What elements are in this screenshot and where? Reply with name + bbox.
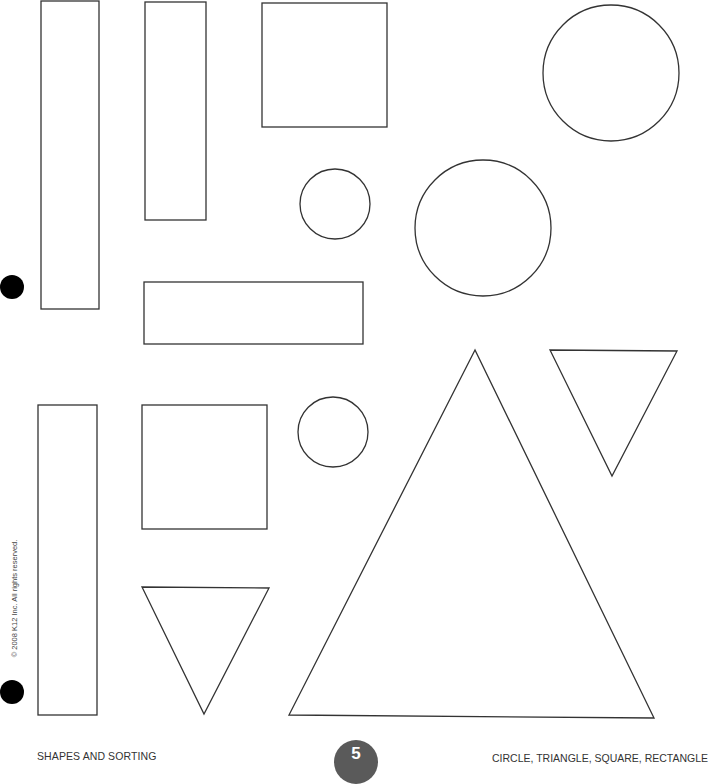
circle-large-middle	[415, 160, 551, 296]
binder-hole-top	[0, 275, 24, 299]
tall-rectangle-bottom-left	[38, 405, 97, 715]
tall-rectangle-top-left	[41, 1, 99, 309]
rectangle-top-middle	[145, 2, 206, 220]
square-bottom	[142, 405, 267, 529]
binder-hole-bottom	[0, 680, 24, 704]
wide-rectangle	[144, 282, 363, 344]
circle-small-top	[300, 169, 370, 239]
triangle-inverted-bottom	[142, 587, 269, 714]
copyright-notice: © 2008 K12 Inc. All rights reserved.	[10, 529, 19, 669]
page-number-badge: 5	[334, 740, 378, 784]
triangle-inverted-right	[550, 350, 677, 476]
triangle-large	[289, 350, 654, 718]
footer-subtitle: CIRCLE, TRIANGLE, SQUARE, RECTANGLE	[492, 752, 708, 764]
circle-large-top-right	[543, 5, 679, 141]
square-top	[262, 3, 387, 127]
footer-title: SHAPES AND SORTING	[37, 750, 156, 762]
circle-small-bottom	[298, 397, 368, 467]
